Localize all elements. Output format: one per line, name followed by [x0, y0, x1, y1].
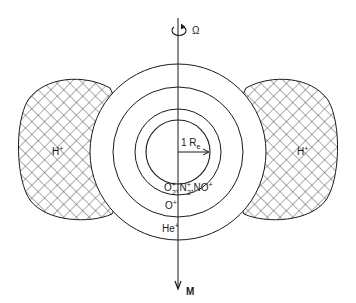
radius-label: 1 Re — [181, 137, 201, 150]
hplus-lobe-left — [18, 79, 140, 220]
omega-label: Ω — [192, 25, 200, 36]
heplus-label: He+ — [162, 222, 179, 234]
hplus-lobe-right — [216, 79, 338, 220]
rotation-icon — [172, 24, 186, 35]
magnetic-axis-label: M — [186, 286, 194, 297]
ionosphere-diagram: Ω M 1 Re H+ H+ O+2,N+2,NO+ O+ He+ — [0, 0, 356, 303]
oplus-label: O+ — [165, 199, 177, 211]
molecular-ions-label: O+2,N+2,NO+ — [164, 181, 213, 196]
